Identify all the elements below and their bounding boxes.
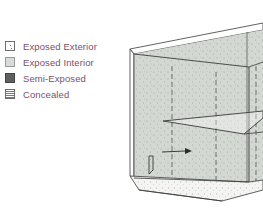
exposed-interior-swatch-icon <box>5 57 15 67</box>
legend-item-exposed-exterior: Exposed Exterior <box>5 38 97 54</box>
legend-label: Semi-Exposed <box>23 73 86 84</box>
legend: Exposed Exterior Exposed Interior Semi-E… <box>5 38 97 102</box>
concealed-swatch-icon <box>5 89 15 99</box>
legend-item-concealed: Concealed <box>5 86 97 102</box>
cabinet-drawing <box>125 0 263 209</box>
legend-label: Exposed Interior <box>23 57 94 68</box>
legend-item-semi-exposed: Semi-Exposed <box>5 70 97 86</box>
cabinet-left-edge <box>130 49 134 178</box>
semi-exposed-swatch-icon <box>5 73 15 83</box>
legend-label: Concealed <box>23 89 69 100</box>
legend-label: Exposed Exterior <box>23 41 97 52</box>
exposed-exterior-swatch-icon <box>5 41 15 51</box>
legend-item-exposed-interior: Exposed Interior <box>5 54 97 70</box>
